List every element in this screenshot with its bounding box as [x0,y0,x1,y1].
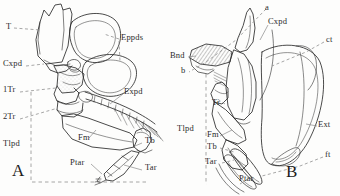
label-b-b: b [181,66,185,75]
label-b-fm: Fm [207,130,219,139]
leader-a-ptar [91,164,102,174]
label-b-ft: ft [325,150,331,159]
leader-a-t [14,28,40,30]
leader-b-cxpd [260,25,268,40]
figure-a-drawing [36,4,163,185]
leader-a-tb [135,143,142,146]
label-a-tb: Tb [145,136,155,145]
label-a-ptar: Ptar [70,158,85,167]
label-a-cxpd: Cxpd [3,59,22,68]
label-b-a: a [265,3,269,12]
leader-a-cxpd [26,64,44,66]
anatomical-plate: T Cxpd 1Tr 2Tr Tlpd Eppds Expd Fm Tb Pta… [0,0,340,196]
label-a-tar: Tar [145,163,157,172]
leader-a-tar [124,165,142,170]
leader-a-1tr [20,88,56,92]
leader-b-tar [222,160,234,163]
leader-a-eppds-upper [104,34,119,39]
label-b-bnd: Bnd [170,51,185,60]
label-a-tlpd: Tlpd [3,139,20,148]
label-a-t: T [6,22,11,31]
figure-letter-b: B [286,163,297,180]
leader-a-2tr [20,108,58,119]
label-b-cxpd: Cxpd [268,17,287,26]
label-b-tb: Tb [207,142,217,151]
figure-b-drawing [190,8,324,194]
label-a-eppds: Eppds [121,33,143,42]
label-a-expd: Expd [124,87,143,96]
figure-letter-a: A [12,162,24,179]
label-b-tr: Tr [212,98,220,107]
leader-b-fm [220,130,232,136]
label-b-tar: Tar [205,157,217,166]
label-a-fm: Fm [78,133,90,142]
label-b-ct: ct [326,35,333,44]
label-a-2tr: 2Tr [3,112,16,121]
label-b-ptar: Ptar [239,174,254,183]
label-a-1tr: 1Tr [3,85,16,94]
label-b-tlpd: Tlpd [177,124,194,133]
label-b-ext: Ext [318,120,330,129]
